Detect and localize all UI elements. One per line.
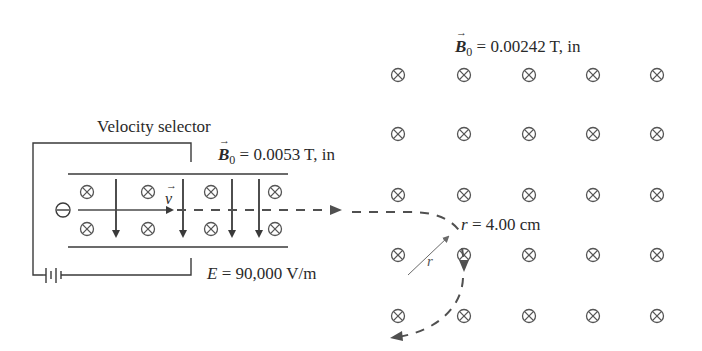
velocity-label: v	[165, 190, 172, 208]
deflection-field-grid	[392, 69, 664, 323]
b-value: = 0.0053 T, in	[240, 145, 335, 164]
r-value: = 4.00 cm	[472, 215, 541, 234]
e-field-label: E = 90,000 V/m	[207, 264, 316, 284]
b-vector-symbol: B	[218, 145, 229, 165]
b-value: = 0.00242 T, in	[477, 37, 581, 56]
battery-icon	[43, 268, 63, 283]
radius-arrow-label: r	[427, 253, 433, 270]
velocity-selector-label: Velocity selector	[97, 117, 211, 137]
electric-field-arrows	[116, 179, 259, 236]
r-symbol: r	[461, 215, 468, 234]
e-value: = 90,000 V/m	[222, 264, 317, 283]
b-subscript: 0	[466, 45, 472, 59]
v-vector-symbol: v	[165, 190, 172, 208]
selector-b-field-label: B0 = 0.0053 T, in	[218, 145, 335, 168]
e-symbol: E	[207, 264, 217, 283]
trajectory-arrowheads	[330, 205, 469, 341]
b-subscript: 0	[229, 153, 235, 167]
negative-particle-icon	[56, 203, 70, 217]
diagram-canvas	[0, 0, 702, 351]
b-vector-symbol: B	[455, 37, 466, 57]
deflection-b-field-label: B0 = 0.00242 T, in	[455, 37, 580, 60]
radius-value-label: r = 4.00 cm	[461, 215, 540, 235]
